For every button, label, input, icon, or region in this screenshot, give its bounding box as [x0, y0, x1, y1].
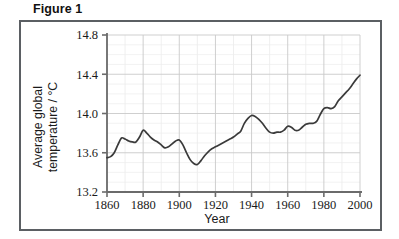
x-axis-tick-label: 1940 [239, 198, 264, 212]
x-axis-tick-label: 2000 [348, 198, 373, 212]
x-axis-tick-label: 1920 [203, 198, 228, 212]
figure-panel: 13.213.614.014.414.8 1860188019001920194… [19, 20, 382, 231]
x-axis-tick-label: 1960 [275, 198, 300, 212]
y-axis-tick-label: 14.0 [76, 107, 98, 121]
x-axis-tick-labels: 18601880190019201940196019802000 [95, 198, 373, 212]
y-axis-title-line2: temperature / °C [46, 82, 60, 172]
figure-container: Figure 1 13.213.614.014.414.8 1860188019… [0, 0, 399, 239]
temperature-line-chart: 13.213.614.014.414.8 1860188019001920194… [21, 22, 380, 229]
x-axis-title: Year [204, 212, 229, 226]
y-axis-tick-labels: 13.213.614.014.414.8 [76, 28, 99, 199]
figure-title: Figure 1 [33, 2, 82, 16]
y-axis-title-line1: Average global [31, 86, 45, 168]
x-axis-tick-label: 1980 [311, 198, 336, 212]
x-axis-tick-label: 1860 [95, 198, 120, 212]
y-axis-tick-label: 14.8 [76, 28, 98, 42]
y-axis-tick-label: 13.6 [76, 146, 98, 160]
x-axis-tick-label: 1880 [131, 198, 156, 212]
x-axis-tick-label: 1900 [167, 198, 192, 212]
y-axis-tick-label: 14.4 [76, 68, 99, 82]
y-axis-title: Average global temperature / °C [31, 82, 60, 172]
